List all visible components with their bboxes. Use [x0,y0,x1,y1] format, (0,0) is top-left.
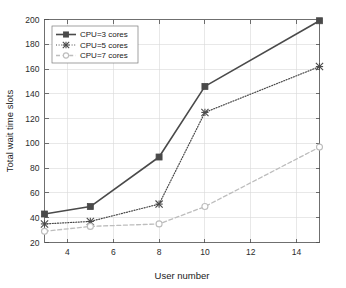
marker-asterisk [155,200,162,207]
marker-asterisk [201,109,208,116]
x-tick-label: 4 [65,247,70,257]
y-tick-label: 80 [30,163,40,173]
marker-square [63,32,68,37]
x-tick-label: 12 [246,247,256,257]
legend: CPU=3 coresCPU=5 coresCPU=7 cores [52,26,138,63]
legend-label: CPU=5 cores [80,41,128,50]
legend-label: CPU=7 cores [80,51,128,60]
series-2 [41,63,323,228]
x-tick-label: 8 [157,247,162,257]
y-tick-labels: 20406080100120140160180200 [25,15,39,248]
y-tick-label: 100 [25,138,39,148]
marker-square [317,18,323,24]
marker-circle [156,221,162,227]
y-axis-title: Total wait time slots [4,90,15,173]
y-tick-label: 120 [25,114,39,124]
marker-circle [202,204,208,210]
x-tick-labels: 468101214 [65,247,302,257]
y-tick-label: 40 [30,213,40,223]
marker-square [202,83,208,89]
series-line [45,147,320,231]
y-tick-label: 20 [30,238,40,248]
marker-circle [42,228,48,234]
x-axis-title: User number [155,270,210,281]
series-line [45,67,320,224]
y-tick-label: 180 [25,39,39,49]
marker-circle [63,53,68,58]
marker-square [156,154,162,160]
marker-circle [317,144,323,150]
line-chart: 20406080100120140160180200 468101214 Use… [0,0,346,288]
y-tick-label: 160 [25,64,39,74]
y-tick-label: 140 [25,89,39,99]
marker-square [87,204,93,210]
marker-asterisk [63,42,69,48]
marker-asterisk [316,63,323,70]
x-tick-label: 6 [111,247,116,257]
legend-label: CPU=3 cores [80,30,128,39]
y-tick-label: 200 [25,15,39,25]
x-tick-label: 14 [292,247,302,257]
marker-square [42,211,48,217]
marker-circle [87,223,93,229]
chart-figure: 20406080100120140160180200 468101214 Use… [0,0,346,288]
y-tick-label: 60 [30,188,40,198]
x-tick-label: 10 [200,247,210,257]
marker-asterisk [41,220,48,227]
